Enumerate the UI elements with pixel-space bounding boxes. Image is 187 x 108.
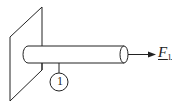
member-tag-number: 1 — [55, 75, 65, 87]
force-label-main: F — [158, 44, 167, 60]
rod-end-cap — [120, 46, 128, 63]
rod — [23, 46, 128, 63]
force-label: F1 — [158, 45, 172, 62]
force-label-subscript: 1 — [167, 52, 172, 62]
force-arrow-head-icon — [148, 52, 156, 58]
